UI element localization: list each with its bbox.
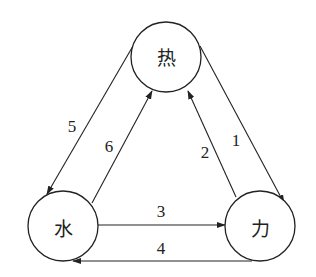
diagram-canvas: 1 2 3 4 5 6 热 水 力 (0, 0, 316, 277)
edge-1-arrow (200, 46, 284, 203)
edge-2-arrow (188, 91, 236, 197)
edge-5-arrow (47, 46, 133, 194)
edge-1-label: 1 (232, 131, 241, 150)
edge-4-label: 4 (157, 239, 166, 258)
node-heat-label: 热 (157, 47, 176, 69)
node-water-label: 水 (54, 218, 73, 240)
node-force: 力 (225, 191, 295, 261)
edge-6-label: 6 (105, 137, 114, 156)
node-force-label: 力 (251, 218, 270, 240)
edge-2-label: 2 (201, 143, 210, 162)
edge-6-arrow (92, 91, 152, 203)
edge-3-label: 3 (157, 202, 166, 221)
node-heat: 热 (131, 22, 201, 92)
edge-5-label: 5 (68, 117, 77, 136)
node-water: 水 (28, 191, 98, 261)
